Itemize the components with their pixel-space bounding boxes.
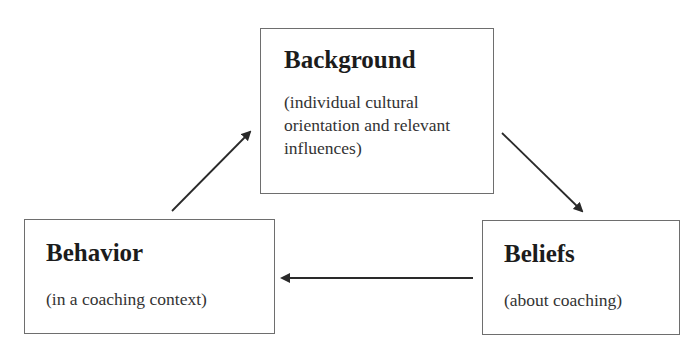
node-beliefs: Beliefs (about coaching) [482, 220, 680, 335]
node-description: (in a coaching context) [46, 288, 207, 311]
node-background: Background (individual cultural orientat… [260, 28, 494, 194]
arrow-background-to-beliefs [502, 133, 582, 211]
node-title: Beliefs [504, 240, 575, 268]
node-description: (individual cultural orientation and rel… [284, 91, 489, 160]
node-title: Behavior [46, 239, 143, 267]
arrow-behavior-to-background [172, 132, 250, 211]
node-description: (about coaching) [504, 289, 622, 312]
node-behavior: Behavior (in a coaching context) [24, 219, 275, 334]
node-title: Background [284, 46, 416, 74]
